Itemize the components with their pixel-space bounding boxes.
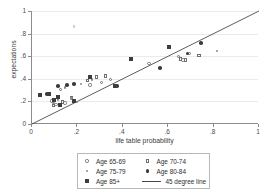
legend-marker-filled-circle-icon [141, 169, 153, 173]
data-point [95, 75, 98, 78]
legend-grid: Age 65-69Age 70-74Age 75-79Age 80-84Age … [81, 156, 206, 186]
data-point [86, 79, 89, 82]
legend-item: Age 70-74 [141, 156, 206, 166]
y-tick-label: .2 [8, 97, 26, 104]
legend-item: Age 65-69 [81, 156, 141, 166]
data-point [167, 45, 171, 49]
legend-label: Age 85+ [96, 178, 120, 185]
data-point [184, 58, 187, 61]
data-point [58, 103, 62, 107]
45-degree-line [32, 11, 259, 124]
data-point [65, 83, 69, 87]
y-tick-label: .6 [8, 52, 26, 59]
x-tick-label: .2 [66, 128, 86, 135]
y-tick-label: 0 [8, 120, 26, 127]
legend-glyph [85, 179, 89, 183]
legend-glyph [86, 170, 89, 173]
data-point [88, 75, 92, 79]
data-point [52, 104, 55, 107]
x-tick [122, 124, 123, 127]
data-point [129, 57, 133, 61]
x-tick-label: .8 [203, 128, 223, 135]
data-point [72, 99, 76, 103]
data-point [88, 83, 91, 86]
data-point [179, 57, 182, 60]
data-point [56, 95, 60, 99]
reference-line-layer [32, 11, 259, 124]
y-tick-label: .8 [8, 30, 26, 37]
data-point [104, 74, 107, 77]
x-tick-label: .6 [157, 128, 177, 135]
x-tick [167, 124, 168, 127]
legend-marker-open-circle-icon [81, 159, 93, 162]
data-point [38, 93, 42, 97]
legend-line-icon [142, 181, 161, 182]
legend-marker-open-square-icon [141, 159, 153, 162]
data-point [158, 66, 162, 70]
legend-item: Age 75-79 [81, 166, 141, 176]
data-point [73, 25, 76, 28]
data-point [199, 41, 203, 45]
scatter-plot-figure: expectations 0.2.4.6.81 0.2.4.6.81 life … [0, 0, 273, 193]
legend-item: Age 85+ [81, 176, 141, 186]
legend-glyph [85, 159, 88, 162]
plot-area [31, 11, 258, 124]
legend-glyph [146, 159, 149, 162]
data-point [113, 84, 117, 88]
legend-marker-dot-icon [81, 170, 93, 173]
legend-label: Age 75-79 [96, 168, 126, 175]
legend-label: Age 65-69 [96, 158, 126, 165]
x-tick [31, 124, 32, 127]
legend-label: 45 degree line [165, 178, 206, 185]
x-tick-label: 0 [21, 128, 41, 135]
y-tick-label: 1 [8, 7, 26, 14]
x-tick [258, 124, 259, 127]
x-axis-title: life table probability [31, 137, 258, 144]
data-point [52, 98, 56, 102]
x-tick-label: .4 [112, 128, 132, 135]
y-tick-label: .4 [8, 75, 26, 82]
data-point [56, 84, 60, 88]
data-point [147, 62, 150, 65]
legend-item: Age 80-84 [141, 166, 206, 176]
data-point [72, 82, 76, 86]
x-tick [213, 124, 214, 127]
data-point [109, 78, 112, 81]
legend-glyph [146, 169, 150, 173]
legend: Age 65-69Age 70-74Age 75-79Age 80-84Age … [77, 153, 210, 189]
data-point [47, 92, 51, 96]
legend-item: 45 degree line [141, 176, 206, 186]
x-tick [76, 124, 77, 127]
legend-marker-filled-square-icon [81, 179, 93, 183]
data-point [197, 54, 200, 57]
legend-label: Age 70-74 [156, 158, 186, 165]
legend-label: Age 80-84 [156, 168, 186, 175]
legend-marker-line-icon [141, 181, 162, 182]
x-tick-label: 1 [248, 128, 268, 135]
